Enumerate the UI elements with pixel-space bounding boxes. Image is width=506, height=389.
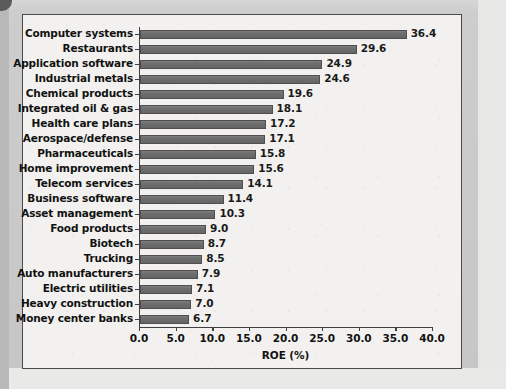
bar-row: Pharmaceuticals15.8 — [139, 147, 432, 162]
bar — [140, 180, 243, 188]
x-tick-label: 25.0 — [309, 332, 335, 344]
category-label: Telecom services — [35, 177, 133, 189]
bar-row: Integrated oil & gas18.1 — [139, 102, 432, 117]
bar-value-label: 19.6 — [288, 87, 314, 99]
bar-row: Electric utilities7.1 — [139, 282, 432, 297]
category-label: Industrial metals — [35, 72, 133, 84]
scan-left-edge — [0, 0, 9, 389]
y-tick-mark — [135, 109, 139, 110]
bar-row: Industrial metals24.6 — [139, 72, 432, 87]
bar — [140, 225, 206, 233]
bar-row: Application software24.9 — [139, 57, 432, 72]
bar — [140, 105, 273, 113]
bar-value-label: 18.1 — [277, 102, 303, 114]
category-label: Food products — [50, 222, 133, 234]
category-label: Computer systems — [25, 27, 133, 39]
bar-row: Heavy construction7.0 — [139, 297, 432, 312]
y-tick-mark — [135, 304, 139, 305]
bar-value-label: 6.7 — [193, 312, 211, 324]
category-label: Aerospace/defense — [23, 132, 133, 144]
y-tick-mark — [135, 229, 139, 230]
category-label: Money center banks — [16, 312, 133, 324]
bar-value-label: 24.6 — [324, 72, 350, 84]
bar-row: Chemical products19.6 — [139, 87, 432, 102]
category-label: Home improvement — [19, 162, 133, 174]
bar — [140, 150, 256, 158]
category-label: Business software — [27, 192, 133, 204]
bar-row: Biotech8.7 — [139, 237, 432, 252]
x-tick-label: 5.0 — [166, 332, 184, 344]
x-tick-mark — [359, 327, 360, 331]
y-tick-mark — [135, 289, 139, 290]
bar — [140, 135, 265, 143]
category-label: Restaurants — [63, 42, 133, 54]
y-tick-mark — [135, 319, 139, 320]
x-tick-label: 35.0 — [383, 332, 409, 344]
x-tick-mark — [176, 327, 177, 331]
bar-row: Home improvement15.6 — [139, 162, 432, 177]
y-tick-mark — [135, 124, 139, 125]
bar-value-label: 15.6 — [258, 162, 284, 174]
chart-frame: Computer systems36.4Restaurants29.6Appli… — [22, 14, 462, 369]
x-axis-title: ROE (%) — [139, 349, 432, 361]
bar-value-label: 8.5 — [206, 252, 224, 264]
bar-row: Health care plans17.2 — [139, 117, 432, 132]
x-tick-label: 20.0 — [273, 332, 299, 344]
bar — [140, 270, 198, 278]
y-tick-mark — [135, 34, 139, 35]
category-label: Trucking — [84, 252, 133, 264]
x-tick-label: 0.0 — [130, 332, 148, 344]
bar — [140, 255, 202, 263]
bar — [140, 195, 224, 203]
bar-value-label: 29.6 — [361, 42, 387, 54]
category-label: Asset management — [21, 207, 133, 219]
bar-row: Restaurants29.6 — [139, 42, 432, 57]
y-tick-mark — [135, 184, 139, 185]
bar — [140, 240, 204, 248]
bar — [140, 75, 320, 83]
category-label: Health care plans — [32, 117, 133, 129]
bar-row: Food products9.0 — [139, 222, 432, 237]
scan-bottom-margin — [0, 368, 506, 389]
category-label: Pharmaceuticals — [37, 147, 133, 159]
bar-value-label: 24.9 — [326, 57, 352, 69]
y-tick-mark — [135, 64, 139, 65]
y-tick-mark — [135, 169, 139, 170]
scan-right-margin — [478, 0, 506, 389]
bar-value-label: 7.1 — [196, 282, 214, 294]
bar — [140, 210, 215, 218]
bar-value-label: 17.1 — [269, 132, 295, 144]
bar-row: Auto manufacturers7.9 — [139, 267, 432, 282]
y-tick-mark — [135, 154, 139, 155]
bar-row: Aerospace/defense17.1 — [139, 132, 432, 147]
bar-row: Telecom services14.1 — [139, 177, 432, 192]
bar-value-label: 7.9 — [202, 267, 220, 279]
x-tick-label: 10.0 — [199, 332, 225, 344]
x-tick-mark — [322, 327, 323, 331]
x-tick-mark — [432, 327, 433, 331]
bar-value-label: 36.4 — [411, 27, 437, 39]
y-tick-mark — [135, 94, 139, 95]
y-tick-mark — [135, 214, 139, 215]
x-tick-mark — [212, 327, 213, 331]
y-tick-mark — [135, 259, 139, 260]
x-tick-mark — [139, 327, 140, 331]
category-label: Electric utilities — [43, 282, 133, 294]
bar — [140, 300, 191, 308]
bar — [140, 45, 357, 53]
bar — [140, 60, 322, 68]
bar-row: Computer systems36.4 — [139, 27, 432, 42]
bar — [140, 285, 192, 293]
category-label: Application software — [13, 57, 133, 69]
bar-value-label: 7.0 — [195, 297, 213, 309]
bar-value-label: 10.3 — [219, 207, 245, 219]
y-tick-mark — [135, 244, 139, 245]
category-label: Auto manufacturers — [17, 267, 133, 279]
bar-row: Asset management10.3 — [139, 207, 432, 222]
category-label: Integrated oil & gas — [18, 102, 133, 114]
y-tick-mark — [135, 139, 139, 140]
bar — [140, 165, 254, 173]
bar-rows: Computer systems36.4Restaurants29.6Appli… — [139, 27, 432, 327]
y-tick-mark — [135, 199, 139, 200]
bar-row: Trucking8.5 — [139, 252, 432, 267]
